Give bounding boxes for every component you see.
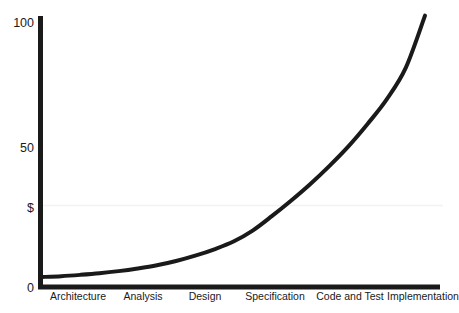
x-axis-label-design: Design: [189, 291, 222, 303]
x-axis-label-row: Architecture Analysis Design Specificati…: [38, 291, 442, 311]
y-axis-tick-50: 50: [0, 142, 34, 155]
y-axis-tick-100: 100: [0, 17, 34, 30]
x-axis-label-implementation: Implementation: [387, 291, 459, 303]
cost-of-change-curve: [42, 16, 425, 277]
y-axis-tick-0: 0: [0, 282, 34, 295]
y-axis-label-dollar: $: [0, 202, 34, 215]
x-axis-label-code-and-test: Code and Test: [316, 291, 384, 303]
x-axis-label-analysis: Analysis: [123, 291, 162, 303]
x-axis-label-specification: Specification: [245, 291, 305, 303]
x-axis-label-architecture: Architecture: [50, 291, 106, 303]
